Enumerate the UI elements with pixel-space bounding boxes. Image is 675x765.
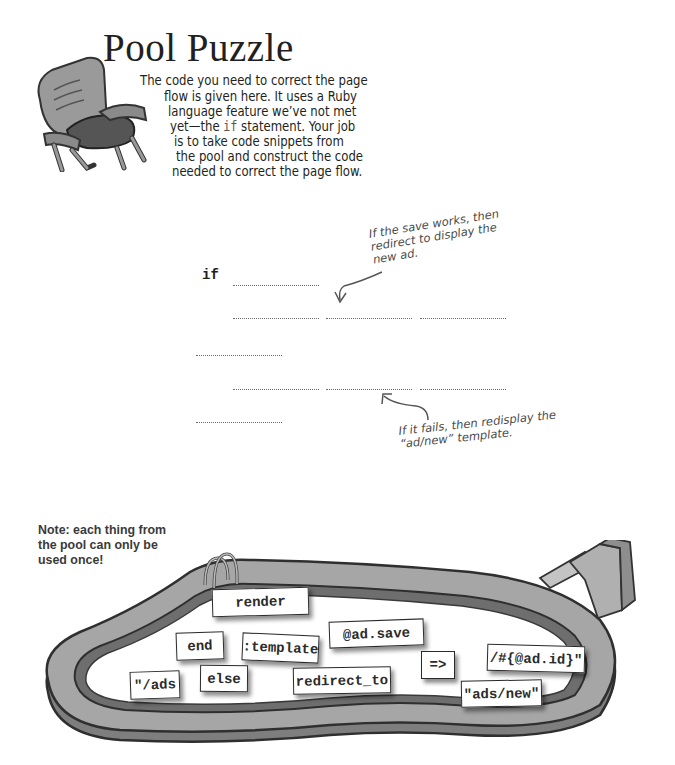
blank-failure-1[interactable]: [233, 389, 319, 390]
if-keyword: if: [202, 267, 219, 283]
snippet-ad-save[interactable]: @ad.save: [329, 618, 425, 648]
snippet-render[interactable]: render: [212, 587, 310, 618]
intro-line: the pool and construct the code: [176, 149, 363, 164]
snippet-else[interactable]: else: [200, 665, 248, 692]
snippet-end[interactable]: end: [176, 631, 225, 661]
blank-end[interactable]: [196, 422, 282, 423]
blank-success-1[interactable]: [233, 318, 319, 319]
blank-success-3[interactable]: [420, 318, 506, 319]
intro-line: language feature we’ve not met: [168, 104, 356, 119]
intro-line: The code you need to correct the page: [140, 73, 368, 88]
arrow-up-icon: [378, 390, 448, 422]
snippet-redirect-to[interactable]: redirect_to: [293, 666, 391, 695]
snippet-ads-path-start[interactable]: "/ads: [130, 670, 181, 700]
snippet-ads-new[interactable]: "ads/new": [461, 679, 542, 707]
intro-text: statement. Your job: [237, 118, 355, 134]
intro-paragraph: The code you need to correct the page fl…: [0, 0, 675, 175]
intro-line: yet—the if statement. Your job: [170, 119, 355, 134]
annotation-success: If the save works, then redirect to disp…: [368, 207, 504, 266]
snippet-template-symbol[interactable]: :template: [241, 632, 319, 663]
snippet-hash-rocket[interactable]: =>: [421, 651, 455, 679]
intro-line: flow is given here. It uses a Ruby: [164, 89, 357, 104]
snippet-ad-id-interp[interactable]: /#{@ad.id}": [487, 644, 586, 674]
blank-else[interactable]: [196, 355, 282, 356]
note-line: Note: each thing from: [38, 523, 166, 538]
inline-code-if: if: [223, 118, 237, 134]
arrow-down-icon: [330, 270, 390, 310]
intro-line: needed to correct the page flow.: [172, 164, 362, 179]
blank-success-2[interactable]: [326, 318, 412, 319]
intro-line: is to take code snippets from: [174, 134, 344, 149]
blank-condition[interactable]: [233, 285, 319, 286]
intro-text: yet—the: [170, 118, 220, 134]
